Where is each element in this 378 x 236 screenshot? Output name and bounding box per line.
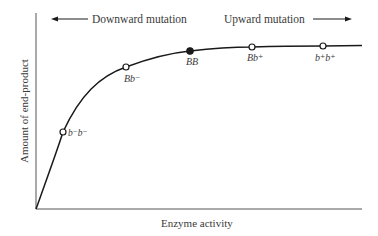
point-B-bminus (123, 64, 129, 70)
point-bminus-bminus (60, 129, 66, 135)
downward-mutation-label: Downward mutation (92, 13, 187, 25)
point-B-bplus (249, 44, 255, 50)
enzyme-activity-diagram: Downward mutation Upward mutation b⁻b⁻ B… (0, 0, 378, 236)
upward-mutation-label: Upward mutation (224, 13, 305, 26)
label-bplus-bplus: b⁺b⁺ (315, 52, 336, 63)
downward-mutation-arrow (51, 17, 88, 22)
label-bminus-bminus: b⁻b⁻ (68, 128, 88, 138)
y-axis-label: Amount of end-product (18, 59, 30, 163)
label-BB: BB (186, 56, 198, 67)
point-BB (187, 48, 193, 54)
label-B-bminus: Bb⁻ (124, 73, 140, 84)
x-axis-label: Enzyme activity (161, 217, 233, 229)
label-B-bplus: Bb⁺ (247, 52, 263, 63)
point-bplus-bplus (320, 43, 326, 49)
upward-mutation-arrow (313, 17, 352, 22)
